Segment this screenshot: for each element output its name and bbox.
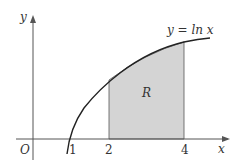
x-tick-2: 2	[105, 143, 113, 157]
curve-label: y = ln x	[166, 23, 214, 37]
y-axis-label: y	[19, 10, 27, 24]
region-label: R	[141, 86, 151, 100]
x-tick-4: 4	[181, 143, 189, 157]
x-tick-1: 1	[69, 143, 77, 157]
ln-diagram: y x O 1 2 4 R y = ln x	[0, 0, 237, 164]
x-axis-label: x	[218, 142, 225, 156]
origin-label: O	[20, 143, 30, 157]
y-axis-arrow-icon	[30, 15, 36, 23]
